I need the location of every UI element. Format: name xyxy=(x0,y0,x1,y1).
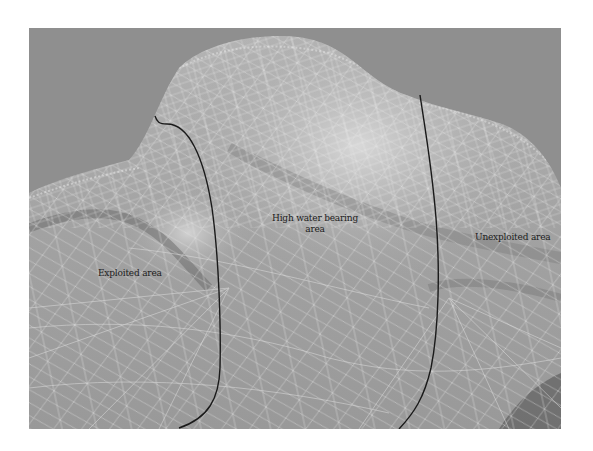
high-water-bearing-area-label: High water bearing area xyxy=(270,213,360,235)
unexploited-area-label: Unexploited area xyxy=(475,232,550,243)
terrain-mesh-figure: Exploited area High water bearing area U… xyxy=(29,28,561,429)
exploited-area-label: Exploited area xyxy=(98,268,162,279)
high-water-bearing-line1: High water bearing xyxy=(272,213,358,223)
high-water-bearing-line2: area xyxy=(305,224,325,234)
